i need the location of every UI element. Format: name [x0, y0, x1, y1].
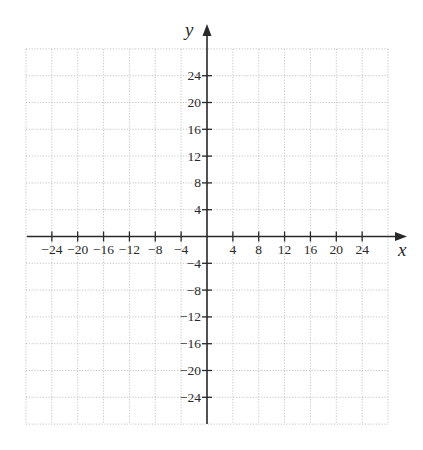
x-tick-label: 24 [355, 242, 369, 257]
y-tick-label: −24 [180, 390, 201, 405]
y-tick-label: −16 [180, 336, 201, 351]
x-tick-label: −12 [119, 242, 140, 257]
y-tick-label: −8 [187, 283, 202, 298]
y-tick-label: 8 [194, 175, 201, 190]
y-tick-label: 4 [194, 202, 201, 217]
y-tick-label: 16 [188, 122, 202, 137]
x-tick-label: 8 [255, 242, 262, 257]
x-tick-label: 16 [304, 242, 318, 257]
y-tick-label: −12 [180, 309, 201, 324]
x-axis-label: x [397, 239, 407, 260]
x-tick-label: 12 [278, 242, 292, 257]
coordinate-plane: −24−20−16−12−8−44812162024 2420161284−4−… [0, 0, 423, 450]
y-tick-label: 24 [188, 68, 202, 83]
x-tick-label: −8 [148, 242, 163, 257]
x-tick-label: −20 [67, 242, 88, 257]
x-ticks: −24−20−16−12−8−44812162024 [41, 232, 369, 257]
y-tick-label: −4 [187, 256, 202, 271]
x-tick-label: −16 [93, 242, 114, 257]
y-axis-label: y [183, 19, 194, 40]
y-tick-label: 12 [188, 149, 202, 164]
axes [27, 24, 407, 424]
x-tick-label: −24 [41, 242, 62, 257]
x-tick-label: 20 [330, 242, 344, 257]
y-axis-arrow-icon [203, 24, 212, 36]
x-tick-label: −4 [174, 242, 189, 257]
x-tick-label: 4 [229, 242, 236, 257]
y-tick-label: −20 [180, 363, 201, 378]
y-tick-label: 20 [188, 95, 202, 110]
